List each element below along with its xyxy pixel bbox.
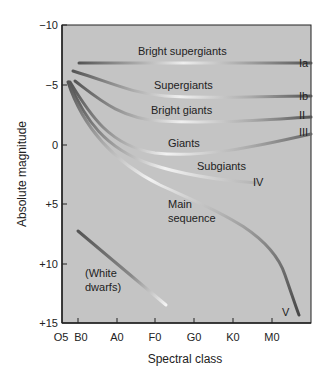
class-label-ia: Ia — [299, 57, 309, 69]
x-tick-label: G0 — [187, 331, 202, 343]
x-tick-label: K0 — [226, 331, 239, 343]
y-tick-label: −5 — [45, 79, 58, 91]
y-tick-label: +10 — [39, 258, 58, 270]
label-subgiants: Subgiants — [197, 160, 246, 172]
class-label-ii: II — [299, 109, 305, 121]
x-tick-label: F0 — [149, 331, 162, 343]
label-supergiants: Supergiants — [154, 79, 213, 91]
label-giants: Giants — [168, 137, 200, 149]
y-tick-label: +5 — [45, 198, 58, 210]
x-axis-title: Spectral class — [148, 352, 223, 366]
label-bright-giants: Bright giants — [151, 104, 213, 116]
y-tick-label: −10 — [39, 19, 58, 31]
x-tick-label: A0 — [110, 331, 123, 343]
label-bright-supergiants: Bright supergiants — [138, 45, 227, 57]
x-tick-label: O5 — [54, 331, 69, 343]
y-tick-label: +15 — [39, 317, 58, 329]
hr-diagram: −10 −5 0 +5 +10 +15 O5 B0 A0 F0 G0 K0 M0… — [0, 0, 327, 383]
label-main-sequence: Main — [168, 198, 192, 210]
class-label-ib: Ib — [299, 90, 308, 102]
class-label-iv: IV — [253, 176, 264, 188]
class-label-v: V — [282, 306, 290, 318]
x-tick-label: B0 — [74, 331, 87, 343]
class-label-iii: III — [299, 126, 308, 138]
label-main-sequence: sequence — [168, 212, 216, 224]
y-tick-label: 0 — [52, 139, 58, 151]
label-white-dwarfs: (White — [85, 267, 117, 279]
y-axis-title: Absolute magnitude — [15, 121, 29, 227]
x-tick-label: M0 — [264, 331, 279, 343]
label-white-dwarfs: dwarfs) — [85, 281, 121, 293]
